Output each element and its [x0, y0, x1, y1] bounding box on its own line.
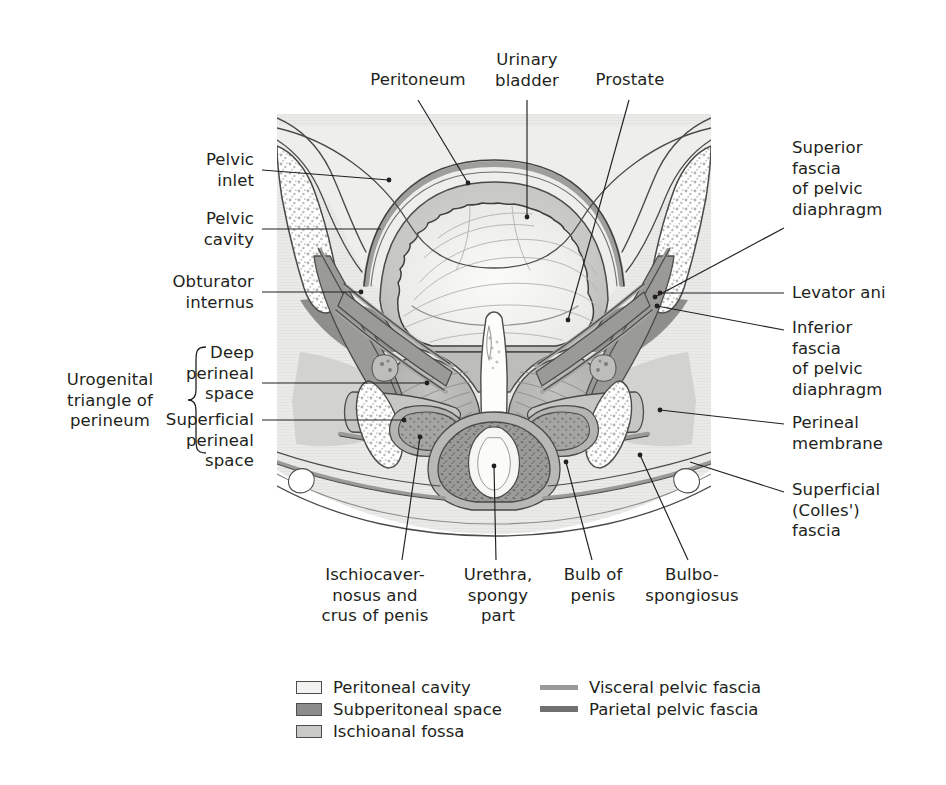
label-inferior-fascia-of-pelvic-diaphragm: Inferior fascia of pelvic diaphragm	[792, 318, 942, 400]
legend-item-ischioanal-fossa: Ischioanal fossa	[296, 720, 502, 742]
legend: Peritoneal cavity Subperitoneal space Is…	[296, 676, 816, 756]
label-superior-fascia-of-pelvic-diaphragm: Superior fascia of pelvic diaphragm	[792, 138, 942, 220]
label-bulb-of-penis: Bulb of penis	[545, 565, 641, 606]
label-prostate: Prostate	[580, 70, 680, 91]
legend-item-peritoneal-cavity: Peritoneal cavity	[296, 676, 502, 698]
legend-swatch-column: Peritoneal cavity Subperitoneal space Is…	[296, 676, 502, 742]
legend-item-parietal-pelvic-fascia: Parietal pelvic fascia	[540, 698, 761, 720]
legend-swatch-ischioanal-fossa	[296, 725, 322, 738]
label-superficial-colles-fascia: Superficial (Colles') fascia	[792, 480, 942, 542]
legend-label-subperitoneal-space: Subperitoneal space	[333, 700, 502, 719]
label-obturator-internus: Obturator internus	[88, 272, 254, 313]
legend-line-visceral-pelvic-fascia	[540, 685, 578, 690]
label-pelvic-inlet: Pelvic inlet	[88, 150, 254, 191]
legend-item-visceral-pelvic-fascia: Visceral pelvic fascia	[540, 676, 761, 698]
label-perineal-membrane: Perineal membrane	[792, 413, 942, 454]
legend-line-column: Visceral pelvic fascia Parietal pelvic f…	[540, 676, 761, 720]
leader-lines	[262, 100, 784, 560]
legend-label-peritoneal-cavity: Peritoneal cavity	[333, 678, 471, 697]
label-urethra-spongy-part: Urethra, spongy part	[448, 565, 548, 627]
label-peritoneum: Peritoneum	[348, 70, 488, 91]
legend-label-visceral-pelvic-fascia: Visceral pelvic fascia	[589, 678, 761, 697]
legend-label-parietal-pelvic-fascia: Parietal pelvic fascia	[589, 700, 758, 719]
label-bulbospongiosus: Bulbo- spongiosus	[637, 565, 747, 606]
label-ischiocavernosus-and-crus-of-penis: Ischiocaver- nosus and crus of penis	[300, 565, 450, 627]
legend-swatch-peritoneal-cavity	[296, 681, 322, 694]
label-urogenital-triangle-of-perineum: Urogenital triangle of perineum	[34, 370, 186, 432]
leader-dots	[359, 178, 663, 469]
legend-swatch-subperitoneal-space	[296, 703, 322, 716]
label-urinary-bladder: Urinary bladder	[477, 50, 577, 91]
anatomy-figure: Peritoneum Urinary bladder Prostate Pelv…	[0, 0, 946, 785]
legend-label-ischioanal-fossa: Ischioanal fossa	[333, 722, 464, 741]
label-pelvic-cavity: Pelvic cavity	[88, 209, 254, 250]
legend-item-subperitoneal-space: Subperitoneal space	[296, 698, 502, 720]
legend-line-parietal-pelvic-fascia	[540, 706, 578, 712]
label-levator-ani: Levator ani	[792, 283, 942, 304]
